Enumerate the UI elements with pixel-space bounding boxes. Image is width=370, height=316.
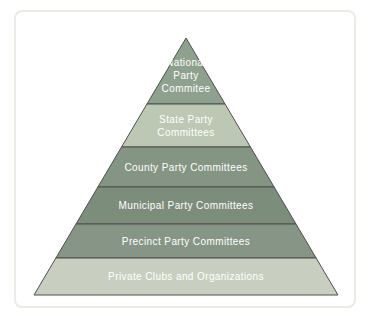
pyramid-level-label: Commitee (162, 83, 211, 94)
pyramid-level-shape (122, 104, 251, 147)
pyramid-level-label: County Party Committees (124, 162, 247, 173)
pyramid-level: County Party Committees (98, 147, 274, 187)
pyramid-level-label: State Party (159, 114, 213, 125)
pyramid-level: Precinct Party Committees (56, 224, 316, 258)
pyramid-level-label: Committees (157, 127, 214, 138)
pyramid-level: State PartyCommittees (122, 104, 251, 147)
pyramid-level-label: Precinct Party Committees (122, 236, 250, 247)
figure-page: NationalPartyCommiteeState PartyCommitte… (0, 0, 370, 316)
pyramid-level: Municipal Party Committees (76, 187, 296, 224)
pyramid-level-label: National (166, 57, 206, 68)
pyramid-level: NationalPartyCommitee (147, 38, 225, 104)
party-organization-pyramid: NationalPartyCommiteeState PartyCommitte… (0, 0, 370, 316)
pyramid-level-label: Municipal Party Committees (119, 200, 254, 211)
pyramid-level: Private Clubs and Organizations (34, 258, 338, 295)
pyramid-level-label: Party (173, 70, 198, 81)
pyramid-level-label: Private Clubs and Organizations (108, 271, 264, 282)
